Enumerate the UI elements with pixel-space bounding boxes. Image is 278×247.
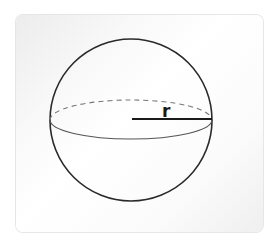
equator-back-dashed: [50, 100, 212, 120]
sphere-diagram: r: [0, 0, 278, 247]
equator-front: [50, 120, 212, 139]
radius-label: r: [162, 101, 171, 121]
